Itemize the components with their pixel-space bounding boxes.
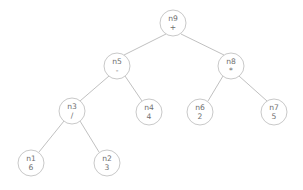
- edge-n9-n8: [181, 34, 224, 55]
- tree-node-n5[interactable]: n5-: [104, 53, 130, 79]
- tree-node-n2[interactable]: n23: [94, 150, 120, 176]
- tree-node-n1[interactable]: n16: [18, 150, 44, 176]
- node-value-n8: *: [229, 66, 233, 75]
- node-value-n3: /: [71, 111, 74, 120]
- edge-n3-n1: [39, 121, 64, 152]
- node-label-n1: n1: [26, 154, 36, 163]
- edge-n3-n2: [80, 121, 99, 152]
- tree-node-n8[interactable]: n8*: [218, 53, 244, 79]
- node-label-n7: n7: [269, 103, 279, 112]
- node-label-n9: n9: [168, 14, 178, 23]
- edge-n9-n5: [124, 34, 166, 55]
- tree-node-n3[interactable]: n3/: [59, 98, 85, 124]
- node-label-n6: n6: [195, 103, 205, 112]
- node-value-n9: +: [170, 23, 176, 32]
- node-label-n5: n5: [112, 57, 122, 66]
- node-value-n1: 6: [29, 163, 34, 172]
- tree-node-n7[interactable]: n75: [261, 99, 287, 125]
- edge-n8-n6: [208, 76, 223, 101]
- node-label-n8: n8: [226, 57, 236, 66]
- node-value-n5: -: [116, 66, 119, 75]
- expression-tree-canvas: n9+n5-n8*n3/n44n62n75n16n23: [0, 0, 303, 190]
- node-label-n3: n3: [67, 102, 77, 111]
- tree-node-n6[interactable]: n62: [187, 99, 213, 125]
- tree-node-n9[interactable]: n9+: [160, 10, 186, 36]
- node-label-n4: n4: [144, 103, 154, 112]
- edge-n5-n4: [125, 76, 142, 101]
- node-value-n7: 5: [272, 112, 277, 121]
- node-value-n2: 3: [105, 163, 110, 172]
- edge-n5-n3: [80, 76, 109, 101]
- tree-graphic: n9+n5-n8*n3/n44n62n75n16n23: [0, 0, 303, 190]
- nodes-group: n9+n5-n8*n3/n44n62n75n16n23: [18, 10, 287, 176]
- tree-node-n4[interactable]: n44: [136, 99, 162, 125]
- node-value-n4: 4: [147, 112, 152, 121]
- node-value-n6: 2: [198, 112, 203, 121]
- edges-group: [39, 34, 267, 152]
- node-label-n2: n2: [102, 154, 112, 163]
- edge-n8-n7: [239, 76, 267, 101]
